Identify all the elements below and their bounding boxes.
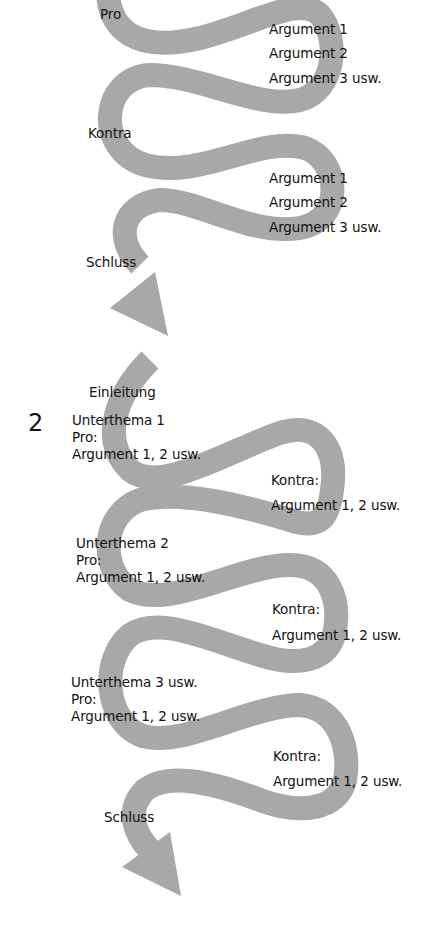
subtopic-1-pro-label: Pro: <box>72 428 98 446</box>
contra-argument-2: Argument 2 <box>269 193 348 211</box>
pro-label: Pro <box>100 5 121 23</box>
contra-argument-3: Argument 3 usw. <box>269 218 381 236</box>
pro-argument-3: Argument 3 usw. <box>269 69 381 87</box>
conclusion-label-2: Schluss <box>104 808 154 826</box>
subtopic-2-pro-args: Argument 1, 2 usw. <box>76 568 205 586</box>
intro-label: Einleitung <box>89 383 156 401</box>
subtopic-1-contra-label: Kontra: <box>271 471 319 489</box>
contra-label: Kontra <box>88 124 132 142</box>
subtopic-2-contra-label: Kontra: <box>272 600 320 618</box>
subtopic-1-title: Unterthema 1 <box>72 411 165 429</box>
arrowhead-1 <box>110 272 168 336</box>
subtopic-1-pro-args: Argument 1, 2 usw. <box>72 445 201 463</box>
subtopic-3-pro-args: Argument 1, 2 usw. <box>71 707 200 725</box>
subtopic-3-pro-label: Pro: <box>71 690 97 708</box>
contra-argument-1: Argument 1 <box>269 169 348 187</box>
conclusion-label-1: Schluss <box>86 253 136 271</box>
subtopic-2-pro-label: Pro: <box>76 551 102 569</box>
subtopic-3-title: Unterthema 3 usw. <box>71 673 197 691</box>
subtopic-3-contra-args: Argument 1, 2 usw. <box>273 772 402 790</box>
subtopic-2-contra-args: Argument 1, 2 usw. <box>272 626 401 644</box>
serpentine-flow-graphic <box>0 0 439 933</box>
pro-argument-1: Argument 1 <box>269 20 348 38</box>
pro-argument-2: Argument 2 <box>269 44 348 62</box>
section-number: 2 <box>28 410 43 436</box>
subtopic-1-contra-args: Argument 1, 2 usw. <box>271 496 400 514</box>
subtopic-3-contra-label: Kontra: <box>273 747 321 765</box>
subtopic-2-title: Unterthema 2 <box>76 534 169 552</box>
